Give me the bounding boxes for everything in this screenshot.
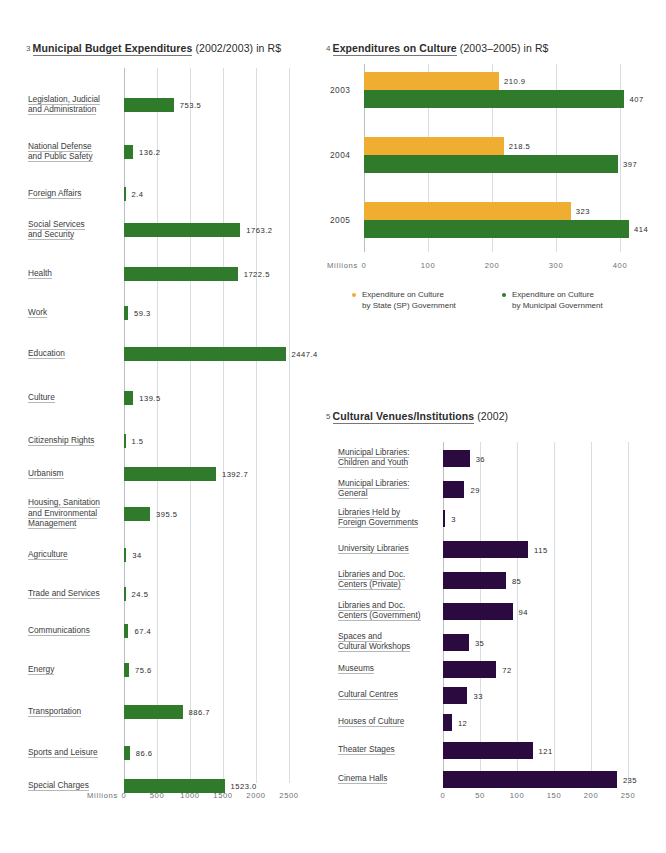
category-label: Housing, Sanitationand EnvironmentalMana… [28, 497, 120, 529]
gridline [289, 68, 290, 783]
category-label: Municipal Libraries:Children and Youth [338, 447, 438, 468]
bar-value-label: 36 [476, 455, 485, 464]
bar [443, 771, 617, 788]
category-label: Communications [28, 625, 120, 636]
year-label: 2003 [330, 85, 350, 95]
bar-value-label: 139.5 [139, 394, 161, 403]
bar-value-label: 1392.7 [222, 470, 248, 479]
bar-value-label: 3 [451, 515, 456, 524]
category-label: Houses of Culture [338, 716, 438, 727]
bar-value-label: 753.5 [180, 101, 202, 110]
bar-value-label: 2.4 [132, 190, 144, 199]
chart3-title-paren: (2002/2003) in R$ [195, 42, 281, 54]
category-label: Citizenship Rights [28, 435, 120, 446]
category-label: Spaces andCultural Workshops [338, 631, 438, 652]
chart3-axis-unit: Millions [62, 791, 118, 800]
gridline [256, 68, 257, 783]
bar [364, 137, 504, 155]
chart5-number: 5 [326, 412, 331, 421]
category-label: Legislation, Judicialand Administration [28, 94, 120, 115]
x-tick-label: 100 [497, 791, 537, 800]
category-label: Libraries and Doc.Centers (Government) [338, 600, 438, 621]
category-label: University Libraries [338, 543, 438, 554]
x-tick-label: 300 [536, 261, 576, 270]
x-tick-label: 250 [608, 791, 648, 800]
gridline [591, 442, 592, 785]
legend-label: Expenditure on Culture by Municipal Gove… [512, 290, 603, 311]
bar-value-label: 72 [502, 666, 511, 675]
chart3-plot [124, 68, 289, 783]
category-label: Foreign Affairs [28, 188, 120, 199]
legend-dot-municipal-icon [502, 293, 506, 297]
chart3-title-main: Municipal Budget Expenditures [33, 42, 193, 56]
bar-value-label: 407 [629, 95, 643, 104]
bar-value-label: 210.9 [504, 77, 526, 86]
bar-value-label: 235 [623, 776, 637, 785]
category-label: Museums [338, 663, 438, 674]
category-label: Municipal Libraries:General [338, 478, 438, 499]
bar [124, 391, 133, 405]
chart5-title: 5Cultural Venues/Institutions (2002) [326, 410, 508, 422]
category-label: Trade and Services [28, 588, 120, 599]
bar [124, 267, 238, 281]
chart-expenditures-on-culture: 4Expenditures on Culture (2003–2005) in … [326, 42, 656, 332]
bar [124, 746, 130, 760]
bar [443, 450, 470, 467]
bar-value-label: 24.5 [132, 590, 149, 599]
bar [124, 587, 126, 601]
gridline [157, 68, 158, 783]
legend-label: Expenditure on Culture by State (SP) Gov… [362, 290, 456, 311]
bar-value-label: 34 [132, 551, 141, 560]
bar [124, 306, 128, 320]
bar-value-label: 85 [512, 577, 521, 586]
category-label: Theater Stages [338, 744, 438, 755]
chart5-title-paren: (2002) [477, 410, 508, 422]
bar-value-label: 29 [470, 486, 479, 495]
bar-value-label: 886.7 [189, 708, 211, 717]
bar [124, 507, 150, 521]
x-tick-label: 150 [534, 791, 574, 800]
bar-value-label: 1763.2 [246, 226, 272, 235]
bar [364, 90, 624, 108]
chart4-plot [364, 64, 620, 252]
bar [443, 481, 464, 498]
bar [443, 510, 445, 527]
x-tick-label: 50 [460, 791, 500, 800]
bar [124, 705, 183, 719]
bar-value-label: 414 [634, 225, 648, 234]
category-label: Special Charges [28, 780, 120, 791]
x-tick-label: 400 [600, 261, 640, 270]
bar [124, 548, 126, 562]
category-label: Libraries and Doc.Centers (Private) [338, 569, 438, 590]
bar [443, 634, 469, 651]
category-label: Cultural Centres [338, 689, 438, 700]
bar-value-label: 115 [534, 546, 548, 555]
category-label: Agriculture [28, 549, 120, 560]
category-label: Social Servicesand Security [28, 219, 120, 240]
legend-item: Expenditure on Culture by Municipal Gove… [502, 290, 603, 312]
category-label: Libraries Held byForeign Governments [338, 507, 438, 528]
bar [124, 467, 216, 481]
bar [364, 72, 499, 90]
bar [443, 572, 506, 589]
bar [443, 541, 528, 558]
bar-value-label: 1.5 [132, 437, 144, 446]
bar-value-label: 33 [473, 692, 482, 701]
bar [124, 187, 126, 201]
bar-value-label: 323 [576, 207, 590, 216]
bar [364, 220, 629, 238]
bar [124, 145, 133, 159]
bar-value-label: 94 [519, 608, 528, 617]
category-label: Sports and Leisure [28, 747, 120, 758]
bar [124, 223, 240, 237]
bar-value-label: 86.6 [136, 749, 153, 758]
category-label: Urbanism [28, 468, 120, 479]
bar [364, 155, 618, 173]
bar-value-label: 67.4 [134, 627, 151, 636]
chart4-number: 4 [326, 44, 331, 53]
bar-value-label: 397 [623, 160, 637, 169]
x-tick-label: 200 [571, 791, 611, 800]
bar [443, 687, 467, 704]
legend-dot-state-icon [352, 293, 356, 297]
bar [124, 434, 126, 448]
